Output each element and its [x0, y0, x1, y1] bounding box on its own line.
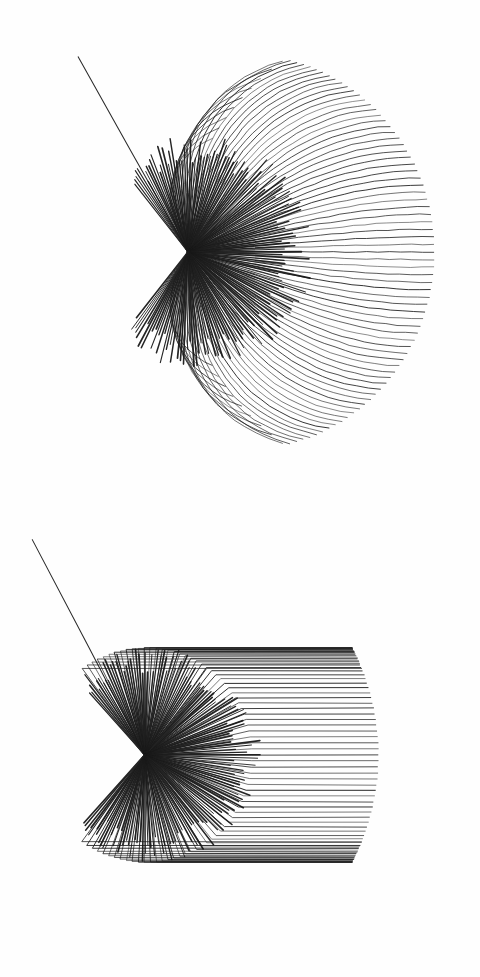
lower-panel — [0, 500, 480, 977]
upper-ray-fan-plot — [0, 0, 480, 500]
upper-panel — [0, 0, 480, 500]
figure-stack — [0, 0, 480, 977]
lower-ray-fan-plot — [0, 500, 480, 977]
